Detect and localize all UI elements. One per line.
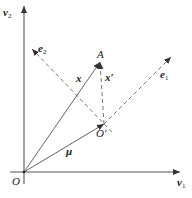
- O-prime-label: O′: [96, 127, 107, 139]
- v1-label: v1: [177, 176, 186, 190]
- origin-point: [23, 171, 26, 174]
- e2-label: e2: [38, 42, 47, 56]
- O-label: O: [12, 175, 20, 187]
- x-prime-vector: [100, 62, 104, 124]
- e1-label: e1: [160, 68, 169, 82]
- x-prime-label: x′: [104, 71, 114, 83]
- vector-diagram: v2 v1 e2 e1 A x x′ μ O O′: [0, 0, 192, 198]
- v2-label: v2: [3, 6, 12, 20]
- e2-axis: [32, 49, 112, 132]
- mu-label: μ: [65, 145, 72, 157]
- mu-vector: [24, 124, 104, 172]
- x-vector: [24, 62, 100, 172]
- A-label: A: [96, 48, 104, 60]
- x-label: x: [75, 72, 82, 84]
